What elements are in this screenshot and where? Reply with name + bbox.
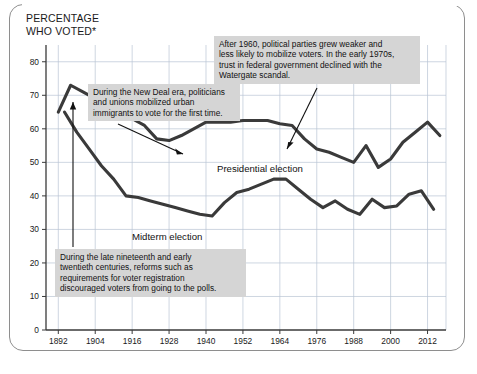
series-label-presidential: Presidential election <box>217 163 303 174</box>
svg-text:20: 20 <box>30 258 40 268</box>
svg-text:1928: 1928 <box>160 336 179 346</box>
annotation-watergate: After 1960, political parties grew weake… <box>214 36 420 84</box>
svg-text:2000: 2000 <box>381 336 400 346</box>
figure-container: PERCENTAGE WHO VOTED* 01020304050607080 … <box>0 0 477 374</box>
svg-text:2012: 2012 <box>418 336 437 346</box>
svg-text:1952: 1952 <box>234 336 253 346</box>
svg-text:0: 0 <box>34 325 39 335</box>
svg-text:1916: 1916 <box>123 336 142 346</box>
x-axis-ticks: 1892190419161928194019521964197619882000… <box>49 330 437 346</box>
svg-text:50: 50 <box>30 157 40 167</box>
annotation-new-deal: During the New Deal era, politicians and… <box>88 84 240 121</box>
svg-text:40: 40 <box>30 191 40 201</box>
svg-text:60: 60 <box>30 124 40 134</box>
svg-text:10: 10 <box>30 291 40 301</box>
svg-text:80: 80 <box>30 57 40 67</box>
svg-text:70: 70 <box>30 90 40 100</box>
svg-text:1976: 1976 <box>307 336 326 346</box>
svg-text:1988: 1988 <box>344 336 363 346</box>
svg-text:1940: 1940 <box>197 336 216 346</box>
annotation-reforms: During the late nineteenth and early twe… <box>55 249 246 297</box>
svg-text:1904: 1904 <box>86 336 105 346</box>
svg-text:1892: 1892 <box>49 336 68 346</box>
y-axis-ticks: 01020304050607080 <box>30 57 46 335</box>
series-label-midterm: Midterm election <box>132 231 202 242</box>
svg-text:1964: 1964 <box>271 336 290 346</box>
svg-text:30: 30 <box>30 224 40 234</box>
